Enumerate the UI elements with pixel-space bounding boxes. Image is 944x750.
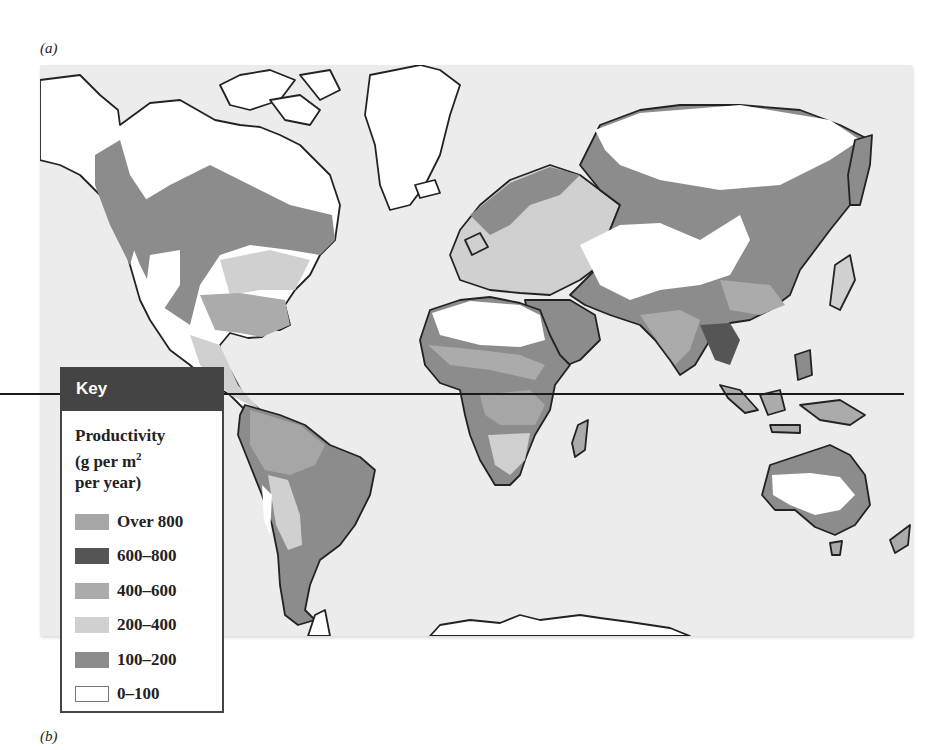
legend-swatch <box>75 686 109 702</box>
legend-item: 600–800 <box>75 539 222 574</box>
legend-item: 0–100 <box>75 677 222 712</box>
legend-swatch <box>75 548 109 564</box>
legend-swatch <box>75 652 109 668</box>
legend-header: Key <box>62 369 222 411</box>
landmass-antarctica <box>430 615 690 636</box>
legend-swatch <box>75 583 109 599</box>
legend-swatch <box>75 514 109 530</box>
panel-label-a: (a) <box>40 40 58 57</box>
legend-items: Over 800 600–800 400–600 200–400 100–200… <box>62 505 222 712</box>
map-legend: Key Productivity (g per m2 per year) Ove… <box>60 367 224 713</box>
legend-title: Productivity (g per m2 per year) <box>62 411 222 493</box>
legend-item: 100–200 <box>75 643 222 678</box>
panel-label-b: (b) <box>40 728 58 745</box>
legend-swatch <box>75 617 109 633</box>
legend-item: 400–600 <box>75 574 222 609</box>
legend-item: 200–400 <box>75 608 222 643</box>
legend-item: Over 800 <box>75 505 222 540</box>
landmass-greenland <box>365 65 460 210</box>
